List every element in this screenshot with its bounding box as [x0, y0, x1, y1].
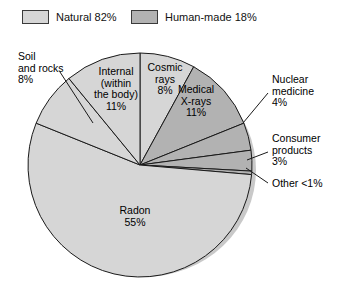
label-consumer-products: Consumer products 3% [272, 133, 320, 168]
label-consumer-line3: 3% [272, 156, 320, 168]
label-nuclear-line1: Nuclear [272, 74, 314, 86]
leader-line-nuclear [243, 93, 268, 123]
label-radon-line2: 55% [105, 217, 165, 229]
label-soil-line3: 8% [18, 74, 64, 86]
label-nuclear-medicine: Nuclear medicine 4% [272, 74, 314, 109]
label-soil-and-rocks: Soil and rocks 8% [18, 51, 64, 86]
label-radon-line1: Radon [105, 205, 165, 217]
label-medical-line1: Medical [172, 84, 220, 96]
label-medical-xrays: Medical X-rays 11% [172, 84, 220, 119]
label-other-line1: Other <1% [272, 178, 323, 190]
chart-area: Soil and rocks 8% Internal (within the b… [0, 0, 339, 286]
label-cosmic-line1: Cosmic [143, 62, 187, 74]
label-internal-line1: Internal [90, 66, 142, 78]
label-internal-line4: 11% [90, 101, 142, 113]
label-soil-line1: Soil [18, 51, 64, 63]
label-other: Other <1% [272, 178, 323, 190]
label-radon: Radon 55% [105, 205, 165, 228]
label-nuclear-line3: 4% [272, 97, 314, 109]
label-consumer-line1: Consumer [272, 133, 320, 145]
label-internal: Internal (within the body) 11% [90, 66, 142, 112]
pie-chart-figure: Natural 82% Human-made 18% S [0, 0, 339, 286]
label-internal-line3: the body) [90, 89, 142, 101]
label-medical-line3: 11% [172, 107, 220, 119]
